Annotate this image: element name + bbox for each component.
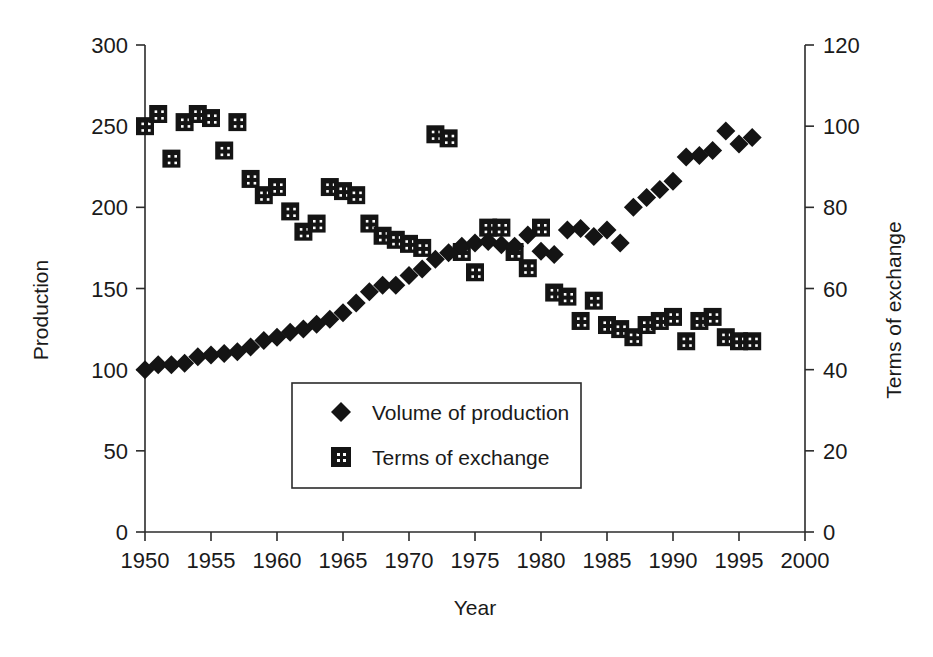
- x-axis-tick-label: 1975: [451, 548, 500, 573]
- data-point-marker-dot: [392, 236, 395, 239]
- data-point-marker-dot: [280, 183, 283, 186]
- data-point-marker-dot: [214, 121, 217, 124]
- data-point-volume-of-production: [347, 294, 366, 313]
- data-point-terms-of-exchange: [677, 332, 695, 350]
- data-point-marker-dot: [339, 194, 342, 197]
- data-point-marker-dot: [544, 224, 547, 227]
- legend-label-terms-of-exchange: Terms of exchange: [372, 446, 549, 469]
- data-point-terms-of-exchange: [585, 292, 603, 310]
- data-point-marker-dot: [359, 198, 362, 201]
- square-icon-dot: [343, 459, 346, 462]
- y-axis-left-tick-label: 150: [91, 277, 128, 302]
- data-point-marker-dot: [643, 321, 646, 324]
- data-point-marker-dot: [577, 317, 580, 320]
- data-point-marker-dot: [445, 135, 448, 138]
- data-point-marker-dot: [273, 190, 276, 193]
- data-point-marker-dot: [584, 324, 587, 327]
- data-point-marker-dot: [313, 227, 316, 230]
- data-point-terms-of-exchange: [466, 263, 484, 281]
- data-point-marker-dot: [735, 344, 738, 347]
- data-point-marker-dot: [254, 182, 257, 185]
- data-point-marker-dot: [643, 328, 646, 331]
- y-axis-right-tick-label: 60: [823, 277, 847, 302]
- data-point-marker-dot: [300, 235, 303, 238]
- legend-border: [292, 383, 581, 488]
- data-point-terms-of-exchange: [149, 105, 167, 123]
- square-icon-dot: [343, 453, 346, 456]
- data-point-marker-dot: [485, 231, 488, 234]
- data-point-terms-of-exchange: [281, 202, 299, 220]
- x-axis-tick-label: 1965: [319, 548, 368, 573]
- data-point-marker-dot: [735, 338, 738, 341]
- x-axis-tick-label: 1970: [385, 548, 434, 573]
- data-point-marker-dot: [214, 114, 217, 117]
- data-point-marker-dot: [432, 137, 435, 140]
- y-axis-left-tick-label: 50: [104, 439, 128, 464]
- data-point-marker-dot: [669, 320, 672, 323]
- y-axis-left-tick-label: 300: [91, 33, 128, 58]
- data-point-marker-dot: [181, 119, 184, 122]
- data-point-marker-dot: [570, 293, 573, 296]
- series-terms-of-exchange-points: [136, 105, 761, 350]
- data-point-marker-dot: [485, 224, 488, 227]
- data-point-marker-dot: [306, 235, 309, 238]
- y-axis-right-tick-label: 0: [823, 520, 835, 545]
- data-point-marker-dot: [676, 320, 679, 323]
- x-axis-tick-label: 2000: [781, 548, 830, 573]
- y-axis-right-tick-label: 120: [823, 33, 860, 58]
- legend: Volume of production Terms of exchange: [292, 383, 581, 488]
- data-point-terms-of-exchange: [228, 113, 246, 131]
- data-point-marker-dot: [683, 344, 686, 347]
- data-point-terms-of-exchange: [440, 129, 458, 147]
- data-point-marker-dot: [260, 198, 263, 201]
- data-point-marker-dot: [405, 247, 408, 250]
- data-point-marker-dot: [603, 328, 606, 331]
- data-point-marker-dot: [471, 275, 474, 278]
- data-point-marker-dot: [280, 190, 283, 193]
- data-point-marker-dot: [320, 220, 323, 223]
- data-point-marker-dot: [669, 313, 672, 316]
- data-point-marker-dot: [227, 154, 230, 157]
- data-point-marker-dot: [339, 188, 342, 191]
- data-point-marker-dot: [709, 320, 712, 323]
- data-point-marker-dot: [240, 119, 243, 122]
- data-point-marker-dot: [247, 182, 250, 185]
- data-point-marker-dot: [392, 243, 395, 246]
- data-point-marker-dot: [749, 338, 752, 341]
- data-point-marker-dot: [141, 123, 144, 126]
- data-point-marker-dot: [465, 255, 468, 258]
- x-axis-tick-label: 1980: [517, 548, 566, 573]
- data-point-marker-dot: [432, 131, 435, 134]
- data-point-terms-of-exchange: [162, 150, 180, 168]
- data-point-marker-dot: [247, 175, 250, 178]
- data-point-marker-dot: [755, 338, 758, 341]
- data-point-marker-dot: [722, 334, 725, 337]
- data-point-terms-of-exchange: [572, 312, 590, 330]
- square-icon: [331, 447, 351, 467]
- data-point-marker-dot: [597, 304, 600, 307]
- data-point-marker-dot: [518, 255, 521, 258]
- data-point-marker-dot: [498, 231, 501, 234]
- data-point-marker-dot: [452, 135, 455, 138]
- data-point-volume-of-production: [532, 242, 551, 261]
- y-axis-right-title: Terms of exchange: [882, 221, 905, 398]
- data-point-marker-dot: [696, 317, 699, 320]
- square-icon-dot: [337, 453, 340, 456]
- data-point-marker-dot: [577, 324, 580, 327]
- data-point-marker-dot: [478, 269, 481, 272]
- data-point-marker-dot: [498, 224, 501, 227]
- data-point-marker-dot: [630, 340, 633, 343]
- y-axis-right-ticks: 020406080100120: [805, 33, 860, 545]
- data-point-terms-of-exchange: [215, 142, 233, 160]
- square-icon-dot: [337, 459, 340, 462]
- data-point-marker-dot: [716, 313, 719, 316]
- data-point-marker-dot: [234, 119, 237, 122]
- data-point-marker-dot: [564, 300, 567, 303]
- data-point-marker-dot: [636, 340, 639, 343]
- data-point-marker-dot: [320, 227, 323, 230]
- data-point-marker-dot: [273, 183, 276, 186]
- data-point-marker-dot: [749, 344, 752, 347]
- data-point-marker-dot: [353, 192, 356, 195]
- data-point-marker-dot: [478, 275, 481, 278]
- data-point-marker-dot: [326, 183, 329, 186]
